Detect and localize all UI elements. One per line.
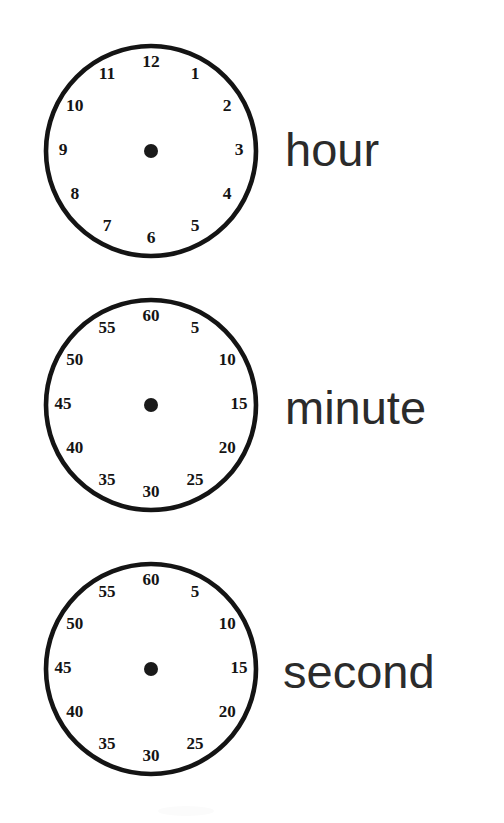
second-clock-face[interactable]: 60510152025303540455055 bbox=[43, 561, 259, 777]
numeral-30: 30 bbox=[143, 482, 160, 501]
numeral-8: 8 bbox=[70, 183, 79, 203]
numeral-5: 5 bbox=[191, 215, 200, 235]
numeral-25: 25 bbox=[187, 734, 204, 753]
minute-clock-face[interactable]: 60510152025303540455055 bbox=[43, 297, 259, 513]
numeral-20: 20 bbox=[219, 438, 236, 457]
numeral-35: 35 bbox=[99, 470, 116, 489]
numeral-4: 4 bbox=[223, 183, 232, 203]
numeral-50: 50 bbox=[66, 614, 83, 633]
numeral-11: 11 bbox=[99, 63, 116, 83]
numeral-40: 40 bbox=[66, 438, 83, 457]
numeral-30: 30 bbox=[143, 746, 160, 765]
minute-dial-svg: 60510152025303540455055 bbox=[43, 297, 259, 513]
numeral-6: 6 bbox=[147, 227, 156, 247]
numeral-7: 7 bbox=[103, 215, 112, 235]
numeral-55: 55 bbox=[99, 582, 116, 601]
numeral-40: 40 bbox=[66, 702, 83, 721]
numeral-60: 60 bbox=[143, 570, 160, 589]
numeral-9: 9 bbox=[59, 139, 68, 159]
numeral-60: 60 bbox=[143, 306, 160, 325]
numeral-1: 1 bbox=[191, 63, 200, 83]
numeral-35: 35 bbox=[99, 734, 116, 753]
numeral-20: 20 bbox=[219, 702, 236, 721]
numeral-15: 15 bbox=[231, 658, 248, 677]
numeral-55: 55 bbox=[99, 318, 116, 337]
diagram-canvas: 121234567891011 hour 6051015202530354045… bbox=[0, 0, 504, 823]
hour-center-hub bbox=[144, 144, 158, 158]
numeral-45: 45 bbox=[55, 658, 72, 677]
numeral-25: 25 bbox=[187, 470, 204, 489]
second-clock-label: second bbox=[283, 648, 435, 695]
numeral-12: 12 bbox=[142, 51, 160, 71]
scan-artifact bbox=[158, 806, 214, 816]
hour-dial-svg: 121234567891011 bbox=[43, 43, 259, 259]
second-center-hub bbox=[144, 662, 158, 676]
numeral-3: 3 bbox=[235, 139, 244, 159]
numeral-50: 50 bbox=[66, 350, 83, 369]
numeral-2: 2 bbox=[223, 95, 232, 115]
numeral-5: 5 bbox=[191, 582, 200, 601]
second-dial-svg: 60510152025303540455055 bbox=[43, 561, 259, 777]
numeral-45: 45 bbox=[55, 394, 72, 413]
minute-clock-label: minute bbox=[285, 384, 426, 431]
minute-center-hub bbox=[144, 398, 158, 412]
numeral-15: 15 bbox=[231, 394, 248, 413]
numeral-10: 10 bbox=[219, 614, 236, 633]
numeral-5: 5 bbox=[191, 318, 200, 337]
hour-clock-face[interactable]: 121234567891011 bbox=[43, 43, 259, 259]
numeral-10: 10 bbox=[66, 95, 84, 115]
hour-clock-label: hour bbox=[285, 126, 379, 173]
numeral-10: 10 bbox=[219, 350, 236, 369]
